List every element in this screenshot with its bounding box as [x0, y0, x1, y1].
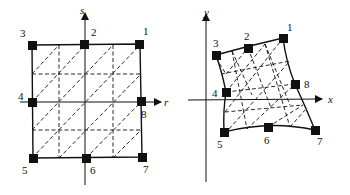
right-node-label-4: 4	[212, 87, 218, 99]
right-node-2	[244, 44, 253, 53]
left-node-label-6: 6	[90, 164, 96, 176]
diagram-canvas: s r 1 2 3 4 5	[0, 0, 350, 195]
right-node-label-6: 6	[264, 134, 270, 146]
right-node-label-7: 7	[317, 135, 323, 147]
left-node-1	[135, 40, 144, 49]
right-node-1	[279, 34, 288, 43]
left-node-2	[80, 40, 89, 49]
left-node-3	[28, 41, 37, 50]
right-node-label-8: 8	[304, 78, 310, 90]
right-node-label-3: 3	[213, 37, 219, 49]
left-figure: s r 1 2 3 4 5	[18, 4, 169, 185]
left-node-label-1: 1	[143, 25, 149, 37]
y-axis-label: y	[203, 6, 209, 18]
left-node-label-3: 3	[20, 27, 26, 39]
right-node-8	[291, 80, 300, 89]
left-node-7	[138, 153, 147, 162]
s-axis-label: s	[80, 4, 84, 16]
r-axis-label: r	[164, 96, 169, 108]
left-node-label-8: 8	[141, 108, 147, 120]
left-node-8	[137, 97, 146, 106]
left-node-label-7: 7	[143, 163, 149, 175]
right-node-label-2: 2	[244, 30, 250, 42]
left-node-label-4: 4	[18, 90, 24, 102]
left-node-4	[28, 98, 37, 107]
right-node-label-5: 5	[217, 138, 223, 150]
right-figure: y x	[188, 6, 333, 182]
right-node-label-1: 1	[287, 21, 293, 33]
left-node-label-2: 2	[91, 26, 97, 38]
left-node-label-5: 5	[22, 164, 28, 176]
right-node-7	[311, 126, 320, 135]
right-node-6	[264, 123, 273, 132]
left-node-6	[82, 154, 91, 163]
left-node-5	[29, 154, 38, 163]
right-element-boundary	[216, 38, 315, 132]
x-axis-label: x	[327, 93, 333, 105]
right-node-4	[222, 88, 231, 97]
right-node-3	[212, 51, 221, 60]
right-node-5	[220, 128, 229, 137]
